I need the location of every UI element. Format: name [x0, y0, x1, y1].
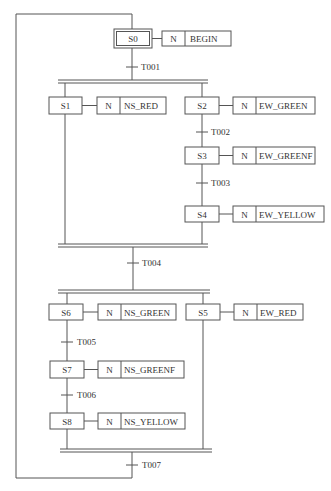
- action-qualifier: N: [106, 365, 113, 375]
- action-block-s7[interactable]: N NS_GREENF: [98, 361, 184, 378]
- parallel-split-2: [58, 290, 210, 293]
- action-qualifier: N: [105, 101, 112, 111]
- transition-label: T001: [141, 62, 160, 72]
- transition-t004[interactable]: T004: [127, 258, 161, 268]
- transition-t006[interactable]: T006: [61, 390, 96, 400]
- action-qualifier: N: [242, 308, 249, 318]
- action-block-s0[interactable]: N BEGIN: [162, 31, 231, 46]
- action-block-s8[interactable]: N NS_YELLOW: [98, 413, 185, 429]
- transition-label: T004: [142, 258, 161, 268]
- action-qualifier: N: [241, 101, 248, 111]
- step-s5[interactable]: S5: [186, 304, 220, 320]
- action-name: EW_RED: [260, 308, 297, 318]
- action-name: NS_YELLOW: [124, 417, 178, 427]
- step-s6[interactable]: S6: [49, 304, 83, 320]
- action-name: EW_YELLOW: [259, 210, 316, 220]
- transition-t002[interactable]: T002: [196, 127, 230, 137]
- action-name: BEGIN: [190, 34, 218, 44]
- parallel-join-1: [58, 244, 208, 247]
- step-s7[interactable]: S7: [50, 361, 84, 378]
- action-name: NS_GREEN: [124, 308, 171, 318]
- action-name: EW_GREENF: [259, 151, 313, 161]
- transition-t003[interactable]: T003: [196, 178, 230, 188]
- step-s0[interactable]: S0: [114, 29, 152, 48]
- sfc-diagram: S0 N BEGIN T001 S1 N NS_RED S2 N: [0, 0, 331, 491]
- action-name: EW_GREEN: [259, 101, 308, 111]
- step-s5-label: S5: [198, 308, 208, 318]
- action-qualifier: N: [106, 417, 113, 427]
- action-block-s1[interactable]: N NS_RED: [97, 97, 166, 114]
- step-s2-label: S2: [197, 101, 207, 111]
- transition-label: T006: [77, 390, 96, 400]
- transition-t001[interactable]: T001: [126, 62, 160, 72]
- step-s2[interactable]: S2: [185, 97, 219, 114]
- action-name: NS_RED: [124, 101, 159, 111]
- loop-back-link: [16, 14, 132, 478]
- transition-label: T005: [77, 337, 96, 347]
- action-qualifier: N: [170, 34, 177, 44]
- action-block-s6[interactable]: N NS_GREEN: [98, 304, 176, 320]
- transition-label: T007: [142, 460, 161, 470]
- transition-t005[interactable]: T005: [61, 337, 96, 347]
- step-s8[interactable]: S8: [50, 413, 84, 429]
- action-block-s2[interactable]: N EW_GREEN: [233, 97, 315, 114]
- action-block-s4[interactable]: N EW_YELLOW: [233, 206, 324, 222]
- step-s6-label: S6: [61, 308, 71, 318]
- parallel-split-1: [58, 80, 208, 83]
- action-qualifier: N: [241, 151, 248, 161]
- transition-t007[interactable]: T007: [126, 460, 161, 470]
- step-s8-label: S8: [62, 417, 72, 427]
- step-s3-label: S3: [197, 151, 207, 161]
- step-s1[interactable]: S1: [49, 97, 82, 114]
- parallel-join-2: [60, 449, 212, 452]
- action-block-s3[interactable]: N EW_GREENF: [233, 147, 315, 164]
- action-qualifier: N: [106, 308, 113, 318]
- step-s7-label: S7: [62, 365, 72, 375]
- action-qualifier: N: [241, 210, 248, 220]
- transition-label: T003: [211, 178, 230, 188]
- step-s1-label: S1: [61, 101, 71, 111]
- action-block-s5[interactable]: N EW_RED: [234, 304, 303, 320]
- step-s0-label: S0: [128, 34, 138, 44]
- step-s4-label: S4: [197, 210, 207, 220]
- transition-label: T002: [211, 127, 230, 137]
- step-s3[interactable]: S3: [185, 147, 219, 164]
- step-s4[interactable]: S4: [185, 206, 219, 222]
- action-name: NS_GREENF: [124, 365, 175, 375]
